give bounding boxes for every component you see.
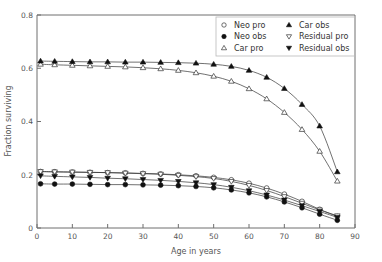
- x-tick-label: 70: [280, 232, 290, 241]
- marker-open-triangle-down: [286, 35, 291, 39]
- legend-label: Residual pro: [299, 32, 349, 41]
- x-tick-label: 40: [174, 232, 184, 241]
- marker-filled-triangle-down: [70, 175, 76, 180]
- x-tick-label: 20: [103, 232, 113, 241]
- legend-label: Car obs: [299, 21, 329, 30]
- series-line: [41, 184, 338, 220]
- legend-label: Residual obs: [299, 44, 349, 53]
- marker-filled-triangle-up: [105, 59, 111, 64]
- data-series-layer: [38, 58, 340, 222]
- series-car-pro: [38, 61, 340, 183]
- marker-filled-triangle-down: [105, 176, 111, 181]
- marker-filled-triangle-up: [335, 169, 341, 174]
- series-neo-pro: [38, 169, 340, 219]
- marker-filled-circle: [222, 34, 226, 38]
- y-tick-label: 0: [28, 224, 33, 233]
- marker-filled-circle: [70, 182, 75, 187]
- marker-filled-triangle-up: [264, 75, 270, 80]
- y-tick-label: 0.4: [21, 117, 33, 126]
- marker-filled-triangle-up: [158, 60, 164, 65]
- marker-filled-triangle-up: [140, 59, 146, 64]
- series-residual-obs: [38, 174, 340, 220]
- marker-open-triangle-up: [317, 149, 323, 154]
- chart-legend: Neo proNeo obsCar proCar obsResidual pro…: [216, 17, 355, 56]
- legend-label: Car pro: [234, 44, 264, 53]
- marker-open-triangle-up: [221, 45, 226, 49]
- x-tick-label: 10: [68, 232, 78, 241]
- marker-open-circle: [222, 23, 226, 27]
- series-line: [41, 61, 338, 172]
- x-axis-ticks: 0102030405060708090: [35, 224, 360, 241]
- y-tick-label: 0.6: [21, 64, 33, 73]
- marker-filled-circle: [88, 182, 93, 187]
- marker-filled-triangle-down: [123, 177, 129, 182]
- marker-filled-triangle-up: [70, 59, 76, 64]
- marker-filled-circle: [105, 182, 110, 187]
- x-axis-label: Age in years: [171, 247, 221, 256]
- legend-label: Neo obs: [234, 32, 266, 41]
- series-line: [41, 64, 338, 181]
- x-tick-label: 80: [315, 232, 325, 241]
- series-car-obs: [38, 58, 340, 173]
- x-tick-label: 0: [35, 232, 40, 241]
- marker-open-triangle-up: [335, 178, 341, 183]
- marker-open-triangle-up: [105, 64, 111, 69]
- series-neo-obs: [38, 181, 340, 222]
- marker-filled-triangle-down: [286, 46, 291, 50]
- marker-filled-triangle-up: [123, 59, 129, 64]
- marker-filled-circle: [141, 182, 146, 187]
- marker-filled-circle: [52, 182, 57, 187]
- series-line: [41, 176, 338, 218]
- x-tick-label: 60: [244, 232, 254, 241]
- y-tick-label: 0.8: [21, 11, 33, 20]
- marker-filled-triangle-up: [317, 123, 323, 128]
- y-axis-ticks: 00.20.40.60.8: [21, 11, 41, 233]
- marker-filled-circle: [38, 181, 43, 186]
- marker-filled-triangle-down: [52, 174, 58, 179]
- marker-open-triangle-up: [140, 65, 146, 70]
- y-tick-label: 0.2: [21, 171, 33, 180]
- marker-filled-triangle-up: [282, 86, 288, 91]
- chart-container: 0102030405060708090 00.20.40.60.8 Neo pr…: [0, 0, 382, 262]
- marker-filled-triangle-up: [87, 59, 93, 64]
- x-tick-label: 50: [209, 232, 219, 241]
- marker-filled-circle: [123, 182, 128, 187]
- marker-open-triangle-up: [246, 86, 252, 91]
- marker-filled-triangle-up: [286, 22, 291, 26]
- marker-filled-triangle-up: [38, 58, 44, 63]
- x-tick-label: 90: [350, 232, 360, 241]
- marker-open-triangle-up: [123, 64, 129, 69]
- marker-filled-triangle-down: [87, 175, 93, 180]
- marker-filled-triangle-down: [140, 178, 146, 183]
- marker-open-triangle-up: [264, 96, 270, 101]
- marker-filled-triangle-down: [38, 174, 44, 179]
- survival-line-chart: 0102030405060708090 00.20.40.60.8 Neo pr…: [0, 0, 382, 262]
- marker-filled-triangle-up: [52, 59, 58, 64]
- series-line: [41, 172, 338, 216]
- marker-filled-triangle-up: [193, 60, 199, 65]
- y-axis-label: Fraction surviving: [4, 85, 13, 156]
- series-line: [41, 172, 338, 217]
- x-tick-label: 30: [138, 232, 148, 241]
- marker-filled-triangle-up: [176, 60, 182, 65]
- legend-label: Neo pro: [234, 21, 266, 30]
